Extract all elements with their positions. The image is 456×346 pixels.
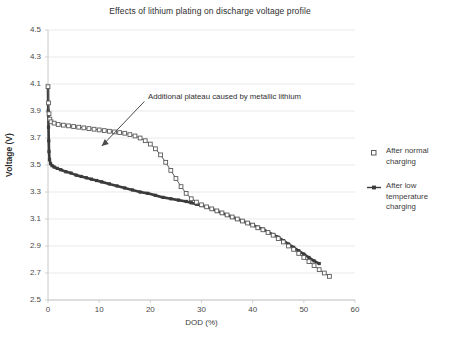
- open-square-marker-icon: [366, 148, 382, 157]
- legend-item-low-temperature-charging[interactable]: After low temperature charging: [366, 181, 454, 213]
- chart-container: Effects of lithium plating on discharge …: [0, 0, 456, 346]
- legend-label-normal-charging: After normal charging: [386, 146, 454, 167]
- x-tick-label: 40: [240, 305, 266, 314]
- y-tick-label: 4.1: [15, 79, 41, 88]
- y-tick-label: 4.3: [15, 52, 41, 61]
- y-tick-label: 3.7: [15, 133, 41, 142]
- legend-item-normal-charging[interactable]: After normal charging: [366, 146, 454, 167]
- y-tick-label: 2.5: [15, 295, 41, 304]
- x-tick-label: 30: [189, 305, 215, 314]
- x-tick-label: 0: [35, 305, 61, 314]
- y-axis-title: Voltage (V): [4, 120, 14, 190]
- x-tick-label: 50: [291, 305, 317, 314]
- y-tick-label: 4.5: [15, 25, 41, 34]
- chart-title: Effects of lithium plating on discharge …: [60, 6, 360, 16]
- y-tick-label: 2.9: [15, 241, 41, 250]
- x-tick-label: 20: [137, 305, 163, 314]
- y-tick-label: 3.5: [15, 160, 41, 169]
- chart-legend: After normal charging After low temperat…: [366, 146, 454, 227]
- x-axis-title: DOD (%): [48, 318, 355, 327]
- x-tick-label: 60: [342, 305, 368, 314]
- y-tick-label: 3.9: [15, 106, 41, 115]
- x-tick-label: 10: [86, 305, 112, 314]
- plateau-annotation: Additional plateau caused by metallic li…: [148, 92, 301, 101]
- legend-label-low-temperature-charging: After low temperature charging: [386, 181, 454, 213]
- line-marker-icon: [366, 183, 382, 192]
- y-tick-label: 3.3: [15, 187, 41, 196]
- y-tick-label: 3.1: [15, 214, 41, 223]
- y-tick-label: 2.7: [15, 268, 41, 277]
